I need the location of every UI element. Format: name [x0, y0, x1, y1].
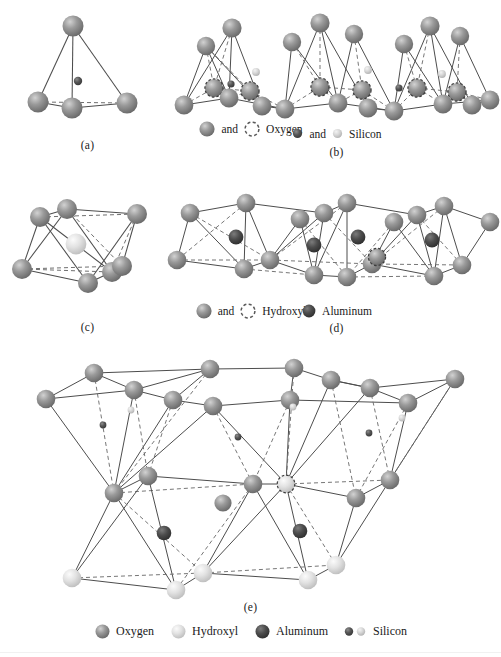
- aluminum-sphere-icon: [254, 623, 271, 640]
- silica-sheet-svg: [172, 4, 501, 126]
- panel-e-combined-sheet: [18, 358, 488, 598]
- panel-d-octahedral-sheet: [172, 190, 501, 300]
- panel-d-figure: [172, 190, 501, 300]
- tetrahedron-svg: [0, 4, 175, 122]
- legend-item-silicon: Silicon: [344, 623, 407, 640]
- panel-a-caption: (a): [0, 139, 175, 151]
- panel-b-figure: [172, 4, 501, 126]
- legend-aluminum-label: Aluminum: [276, 624, 328, 639]
- legend-item-oxygen: Oxygen: [94, 623, 154, 640]
- panel-a-silica-tetrahedron: [0, 4, 175, 122]
- octahedral-sheet-svg: [172, 190, 501, 300]
- panel-d-caption: (d): [172, 322, 501, 334]
- legend-d-label: Aluminum: [322, 305, 372, 317]
- panel-e-figure: [18, 358, 488, 598]
- scan-artifact-line: [0, 652, 501, 653]
- panel-e-caption: (e): [0, 601, 501, 613]
- panel-c-alumina-octahedron: [0, 188, 175, 300]
- figure-legend: Oxygen Hydroxyl Aluminum Silicon: [0, 623, 501, 640]
- silicon-light-sphere-icon: [331, 127, 344, 140]
- panel-c-figure: [0, 188, 175, 300]
- legend-silicon-label: Silicon: [373, 624, 407, 639]
- oxygen-sphere-icon: [94, 623, 111, 640]
- panel-b-caption: (b): [172, 146, 501, 158]
- silicon-dark-sphere-icon: [291, 127, 304, 140]
- combined-sheet-svg: [18, 358, 488, 598]
- legend-item-aluminum: Aluminum: [254, 623, 328, 640]
- legend-b-conjunction: and: [309, 128, 326, 140]
- panel-c-caption: (c): [0, 321, 175, 333]
- panel-a-figure: [0, 4, 175, 122]
- panel-b-silica-sheet: [172, 4, 501, 126]
- hydroxyl-sphere-icon: [170, 623, 187, 640]
- silicon-sphere-icon: [344, 623, 368, 640]
- legend-oxygen-label: Oxygen: [116, 624, 154, 639]
- panel-d-legend: Aluminum: [172, 303, 501, 319]
- panel-b-legend: and Silicon: [172, 127, 501, 140]
- legend-b-label: Silicon: [349, 128, 382, 140]
- legend-hydroxyl-label: Hydroxyl: [192, 624, 238, 639]
- aluminum-sphere-icon: [301, 303, 317, 319]
- legend-item-hydroxyl: Hydroxyl: [170, 623, 238, 640]
- octahedron-svg: [0, 188, 175, 300]
